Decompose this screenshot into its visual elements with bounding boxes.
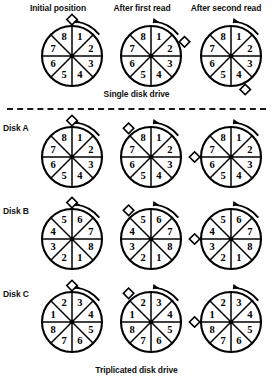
disk-sector-label: 5	[247, 324, 252, 335]
disk-sector-label: 2	[141, 297, 146, 308]
disk-sector-label: 7	[50, 144, 55, 155]
disk-sector-label: 4	[156, 69, 162, 80]
disk-sector-label: 5	[167, 324, 172, 335]
disk-sector-label: 4	[156, 170, 162, 181]
disk-sector-label: 5	[141, 170, 146, 181]
disk-sector-label: 5	[221, 69, 226, 80]
disk-sector-label: 2	[221, 252, 226, 263]
disk-sector-label: 5	[141, 214, 146, 225]
disk-sector-label: 7	[209, 43, 214, 54]
disk-sector-label: 7	[50, 43, 55, 54]
disk-sector-label: 3	[129, 241, 134, 252]
index-marker-diamond-icon	[123, 288, 133, 298]
disk-hub	[70, 54, 75, 59]
disk-sector-label: 2	[88, 144, 93, 155]
disk-sector-label: 7	[221, 335, 226, 346]
disk-sector-label: 5	[221, 170, 226, 181]
disk-sector-label: 4	[129, 226, 135, 237]
index-marker-diamond-icon	[189, 234, 199, 244]
disk-c-after-first-read: 23456781	[113, 284, 189, 360]
disk-b-after-second-read: 56781234	[193, 201, 269, 277]
disk-sector-label: 2	[167, 144, 172, 155]
index-marker-diamond-icon	[67, 280, 77, 290]
disk-hub	[70, 237, 75, 242]
disk-sector-label: 3	[167, 159, 172, 170]
disk-sector-label: 2	[167, 43, 172, 54]
disk-sector-label: 7	[247, 226, 252, 237]
disk-sector-label: 4	[236, 170, 242, 181]
disk-sector-label: 8	[50, 324, 55, 335]
disk-sector-label: 1	[129, 309, 134, 320]
disk-single-initial: 81234567	[34, 18, 110, 94]
index-marker-diamond-icon	[67, 197, 77, 207]
disk-single-after-second-read: 81234567	[193, 18, 269, 94]
disk-sector-label: 8	[141, 132, 146, 143]
row-label-disk-c: Disk C	[3, 289, 29, 299]
disk-sector-label: 8	[209, 324, 214, 335]
disk-sector-label: 3	[50, 241, 55, 252]
disk-sector-label: 2	[247, 144, 252, 155]
disk-rotation-figure: Initial position After first read After …	[0, 0, 273, 387]
disk-sector-label: 1	[77, 252, 82, 263]
disk-sector-label: 3	[236, 297, 241, 308]
disk-sector-label: 7	[209, 144, 214, 155]
disk-sector-label: 6	[77, 214, 82, 225]
disk-hub	[149, 320, 154, 325]
disk-a-after-second-read: 81234567	[193, 119, 269, 195]
column-header-after-second-read: After second read	[181, 3, 271, 13]
disk-c-after-second-read: 23456781	[193, 284, 269, 360]
disk-sector-label: 8	[141, 31, 146, 42]
disk-sector-label: 1	[236, 31, 241, 42]
disk-sector-label: 4	[167, 309, 173, 320]
disk-sector-label: 3	[167, 58, 172, 69]
disk-sector-label: 4	[88, 309, 94, 320]
disk-hub	[229, 54, 234, 59]
disk-sector-label: 1	[156, 31, 161, 42]
index-marker-diamond-icon	[189, 152, 199, 162]
index-marker-diamond-icon	[179, 37, 189, 47]
disk-sector-label: 2	[62, 252, 67, 263]
disk-sector-label: 4	[247, 309, 253, 320]
disk-sector-label: 7	[88, 226, 93, 237]
disk-sector-label: 8	[221, 132, 226, 143]
index-marker-diamond-icon	[67, 115, 77, 125]
disk-sector-label: 7	[62, 335, 67, 346]
disk-sector-label: 8	[129, 324, 134, 335]
disk-sector-label: 8	[62, 31, 67, 42]
disk-sector-label: 3	[77, 297, 82, 308]
disk-sector-label: 4	[236, 69, 242, 80]
disk-sector-label: 1	[209, 309, 214, 320]
caption-single-disk-drive: Single disk drive	[0, 89, 273, 99]
disk-sector-label: 6	[77, 335, 82, 346]
disk-a-after-first-read: 81234567	[113, 119, 189, 195]
disk-sector-label: 6	[129, 58, 134, 69]
disk-sector-label: 1	[236, 132, 241, 143]
disk-sector-label: 7	[129, 43, 134, 54]
disk-sector-label: 7	[167, 226, 172, 237]
disk-sector-label: 6	[50, 159, 55, 170]
disk-sector-label: 6	[156, 335, 161, 346]
disk-sector-label: 1	[77, 132, 82, 143]
disk-sector-label: 8	[167, 241, 172, 252]
disk-hub	[70, 320, 75, 325]
row-label-disk-a: Disk A	[3, 123, 29, 133]
disk-c-initial: 23456781	[34, 284, 110, 360]
disk-single-after-first-read: 81234567	[113, 18, 189, 94]
disk-sector-label: 8	[221, 31, 226, 42]
column-header-after-first-read: After first read	[101, 3, 183, 13]
disk-sector-label: 6	[156, 214, 161, 225]
disk-sector-label: 3	[88, 58, 93, 69]
disk-sector-label: 1	[236, 252, 241, 263]
disk-hub	[229, 155, 234, 160]
disk-sector-label: 6	[50, 58, 55, 69]
disk-sector-label: 5	[62, 214, 67, 225]
index-marker-diamond-icon	[123, 205, 133, 215]
index-marker-diamond-icon	[123, 123, 133, 133]
disk-b-initial: 56781234	[34, 201, 110, 277]
disk-hub	[149, 155, 154, 160]
caption-triplicated-disk-drive: Triplicated disk drive	[0, 365, 273, 375]
disk-sector-label: 8	[88, 241, 93, 252]
disk-hub	[149, 237, 154, 242]
disk-sector-label: 1	[156, 132, 161, 143]
disk-sector-label: 3	[88, 159, 93, 170]
